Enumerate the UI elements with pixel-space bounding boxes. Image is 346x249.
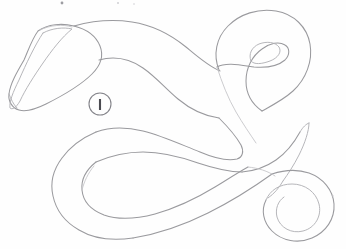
paper-speck <box>61 2 64 5</box>
back-contour-upper <box>74 21 220 71</box>
mid-body-lower-edge <box>52 132 133 239</box>
hairpin-inner-arc <box>82 162 248 218</box>
upper-coil-inner-turn <box>217 43 289 111</box>
tail-spiral-inner <box>266 184 320 232</box>
hairpin-return-arc <box>96 152 242 172</box>
annotation-circled-mark <box>89 93 111 115</box>
paper-speck <box>332 195 334 197</box>
upper-coil-eye-loop <box>250 42 280 63</box>
throat-contour-lower <box>99 58 219 118</box>
head-outline <box>9 24 102 110</box>
mid-body-upper-edge <box>96 118 243 160</box>
tail-spiral-crossing-strand <box>268 181 283 198</box>
sketch-canvas: Hand-drawn pencil sketch graphite pencil… <box>0 0 346 249</box>
tail-approach-upper <box>242 132 300 172</box>
upper-coil-outer <box>216 10 311 111</box>
mid-right-secondary-strand <box>217 67 256 143</box>
paper-speck <box>117 2 119 4</box>
hairpin-outer-arc <box>133 174 272 238</box>
tail-spiral-outer <box>263 170 334 241</box>
head-top-highlight <box>40 25 72 30</box>
sketch-drawing <box>0 0 346 249</box>
tail-tip-left <box>300 123 309 132</box>
paper-specks <box>61 2 334 197</box>
paper-speck <box>133 3 135 5</box>
